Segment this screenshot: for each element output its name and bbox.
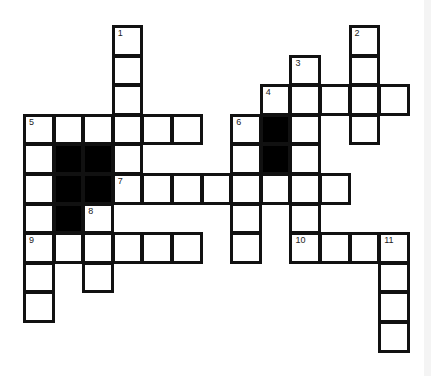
crossword-cell[interactable]	[112, 232, 144, 264]
clue-number: 6	[236, 118, 241, 127]
black-square	[53, 203, 85, 235]
crossword-cell[interactable]	[141, 173, 173, 205]
clue-number: 8	[88, 207, 93, 216]
crossword-cell[interactable]	[53, 114, 85, 146]
clue-number: 4	[266, 88, 271, 97]
crossword-cell[interactable]: 11	[378, 232, 410, 264]
crossword-cell[interactable]	[378, 321, 410, 353]
black-square	[82, 143, 114, 175]
crossword-cell[interactable]	[23, 262, 55, 294]
crossword-cell[interactable]	[289, 114, 321, 146]
black-square	[82, 173, 114, 205]
crossword-cell[interactable]	[319, 84, 351, 116]
crossword-cell[interactable]: 6	[230, 114, 262, 146]
crossword-cell[interactable]: 8	[82, 203, 114, 235]
crossword-cell[interactable]: 2	[349, 25, 381, 57]
crossword-cell[interactable]	[82, 232, 114, 264]
crossword-cell[interactable]	[112, 55, 144, 87]
crossword-cell[interactable]: 4	[260, 84, 292, 116]
crossword-cell[interactable]: 9	[23, 232, 55, 264]
black-square	[260, 143, 292, 175]
crossword-cell[interactable]	[171, 232, 203, 264]
crossword-cell[interactable]	[23, 291, 55, 323]
crossword-cell[interactable]	[82, 114, 114, 146]
crossword-cell[interactable]	[112, 84, 144, 116]
crossword-cell[interactable]: 5	[23, 114, 55, 146]
crossword-cell[interactable]	[53, 232, 85, 264]
clue-number: 1	[118, 29, 123, 38]
crossword-cell[interactable]	[112, 114, 144, 146]
crossword-cell[interactable]	[319, 173, 351, 205]
clue-number: 9	[29, 236, 34, 245]
crossword-cell[interactable]	[230, 203, 262, 235]
crossword-cell[interactable]	[23, 203, 55, 235]
crossword-cell[interactable]: 7	[112, 173, 144, 205]
crossword-cell[interactable]	[230, 173, 262, 205]
black-square	[53, 173, 85, 205]
crossword-cell[interactable]	[230, 232, 262, 264]
clue-number: 5	[29, 118, 34, 127]
crossword-cell[interactable]	[23, 143, 55, 175]
crossword-grid: 1723104596811	[0, 0, 431, 376]
crossword-cell[interactable]	[230, 143, 262, 175]
crossword-cell[interactable]	[289, 84, 321, 116]
crossword-cell[interactable]	[349, 55, 381, 87]
crossword-cell[interactable]	[112, 143, 144, 175]
crossword-cell[interactable]	[319, 232, 351, 264]
crossword-cell[interactable]	[378, 262, 410, 294]
crossword-cell[interactable]: 3	[289, 55, 321, 87]
clue-number: 10	[295, 236, 305, 245]
crossword-cell[interactable]	[289, 203, 321, 235]
clue-number: 11	[384, 236, 393, 245]
crossword-cell[interactable]	[260, 173, 292, 205]
crossword-cell[interactable]	[23, 173, 55, 205]
crossword-cell[interactable]	[171, 114, 203, 146]
crossword-cell[interactable]	[141, 232, 173, 264]
crossword-cell[interactable]	[349, 232, 381, 264]
black-square	[53, 143, 85, 175]
crossword-cell[interactable]: 10	[289, 232, 321, 264]
crossword-cell[interactable]	[171, 173, 203, 205]
crossword-cell[interactable]	[378, 84, 410, 116]
black-square	[260, 114, 292, 146]
crossword-cell[interactable]: 1	[112, 25, 144, 57]
clue-number: 3	[295, 59, 300, 68]
clue-number: 2	[355, 29, 360, 38]
crossword-cell[interactable]	[141, 114, 173, 146]
crossword-cell[interactable]	[378, 291, 410, 323]
crossword-cell[interactable]	[201, 173, 233, 205]
crossword-cell[interactable]	[289, 143, 321, 175]
crossword-cell[interactable]	[349, 84, 381, 116]
crossword-cell[interactable]	[289, 173, 321, 205]
clue-number: 7	[118, 177, 123, 186]
crossword-cell[interactable]	[349, 114, 381, 146]
crossword-cell[interactable]	[82, 262, 114, 294]
